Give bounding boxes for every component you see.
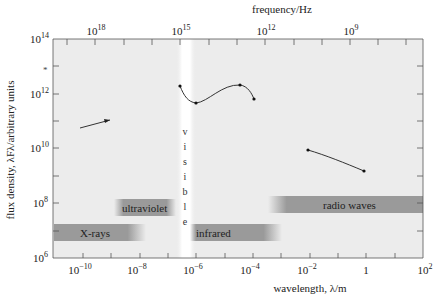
svg-text:1: 1 — [363, 264, 369, 276]
svg-text:108: 108 — [33, 195, 48, 209]
chart: X-rays ultraviolet infrared radio waves … — [0, 0, 441, 298]
svg-text:10−10: 10−10 — [68, 262, 92, 276]
svg-text:i: i — [184, 141, 187, 152]
band-label-infrared: infrared — [196, 227, 231, 239]
svg-text:10−4: 10−4 — [240, 262, 260, 276]
star-mark: * — [43, 65, 48, 75]
band-label-ultraviolet: ultraviolet — [122, 202, 167, 214]
svg-text:i: i — [184, 171, 187, 182]
top-tick-labels: 1018 1015 1012 109 — [87, 23, 359, 37]
svg-text:10−2: 10−2 — [297, 262, 317, 276]
x-tick-labels: 10−10 10−8 10−6 10−4 10−2 1 102 — [68, 262, 432, 276]
svg-text:1015: 1015 — [172, 23, 191, 37]
svg-text:e: e — [183, 216, 188, 227]
band-label-xrays: X-rays — [80, 227, 110, 239]
svg-text:106: 106 — [33, 250, 48, 264]
svg-text:10−8: 10−8 — [127, 262, 147, 276]
top-axis-label: frequency/Hz — [252, 3, 312, 15]
svg-text:s: s — [183, 156, 187, 167]
svg-text:b: b — [183, 186, 188, 197]
svg-text:10−6: 10−6 — [183, 262, 203, 276]
svg-text:109: 109 — [344, 23, 359, 37]
svg-text:102: 102 — [418, 262, 433, 276]
svg-text:1018: 1018 — [87, 23, 106, 37]
svg-text:1012: 1012 — [30, 86, 49, 100]
y-axis-label: flux density, λFλ/arbitrary units — [4, 81, 16, 220]
svg-text:v: v — [183, 126, 188, 137]
svg-text:1010: 1010 — [30, 140, 49, 154]
svg-text:1012: 1012 — [257, 23, 276, 37]
svg-text:l: l — [184, 201, 187, 212]
x-axis-label: wavelength, λ/m — [273, 282, 347, 294]
band-label-radio: radio waves — [323, 199, 376, 211]
svg-text:1014: 1014 — [30, 31, 49, 45]
